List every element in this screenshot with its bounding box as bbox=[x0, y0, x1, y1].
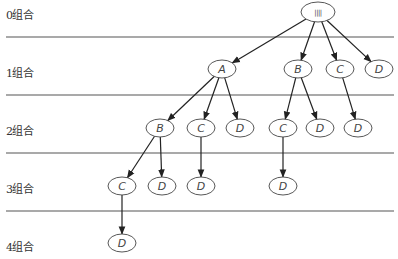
tree-node-AB: B bbox=[146, 119, 174, 137]
tree-node-A: A bbox=[208, 60, 236, 78]
edge-arrow-root-D1 bbox=[327, 20, 371, 61]
edge-arrow-C1-CD bbox=[343, 78, 356, 119]
node-label: D bbox=[236, 122, 244, 135]
tree-node-ACD: D bbox=[187, 177, 215, 195]
tree-node-BC: C bbox=[269, 119, 297, 137]
node-label: D bbox=[158, 180, 166, 193]
tree-node-BCD: D bbox=[269, 177, 297, 195]
edge-arrow-AB-ABC bbox=[127, 136, 154, 177]
tree-node-B1: B bbox=[284, 60, 312, 78]
tree-node-D1: D bbox=[365, 60, 393, 78]
node-label: D bbox=[197, 180, 205, 193]
tree-node-BD: D bbox=[306, 119, 334, 137]
node-label: B bbox=[294, 63, 302, 76]
tree-node-ABCD: D bbox=[108, 234, 136, 252]
tree-node-ABC: C bbox=[108, 177, 136, 195]
tree-node-ABD: D bbox=[148, 177, 176, 195]
node-label: B bbox=[156, 122, 164, 135]
tree-node-CD: D bbox=[344, 119, 372, 137]
tree-node-root: |||| bbox=[301, 2, 335, 22]
node-label: |||| bbox=[314, 9, 322, 17]
node-label: C bbox=[197, 122, 205, 135]
edge-arrow-root-B1 bbox=[301, 22, 314, 60]
node-label: D bbox=[118, 237, 126, 250]
edge-arrow-B1-BD bbox=[301, 78, 316, 119]
edge-arrow-A-AD bbox=[225, 78, 238, 119]
combination-tree-diagram: ||||ABCDBCDCDDCDDDD bbox=[0, 0, 398, 259]
tree-node-C1: C bbox=[326, 60, 354, 78]
edge-arrow-B1-BC bbox=[285, 78, 295, 119]
node-label: A bbox=[217, 63, 226, 76]
node-label: C bbox=[336, 63, 344, 76]
node-label: D bbox=[316, 122, 324, 135]
edge-arrow-AB-ABD bbox=[160, 137, 161, 177]
tree-node-AC: C bbox=[187, 119, 215, 137]
edge-arrow-A-AB bbox=[168, 76, 214, 120]
node-label: C bbox=[118, 180, 126, 193]
edge-arrow-root-A bbox=[232, 19, 306, 63]
node-label: D bbox=[354, 122, 362, 135]
node-label: C bbox=[279, 122, 287, 135]
node-label: D bbox=[279, 180, 287, 193]
tree-node-AD: D bbox=[226, 119, 254, 137]
node-label: D bbox=[375, 63, 383, 76]
